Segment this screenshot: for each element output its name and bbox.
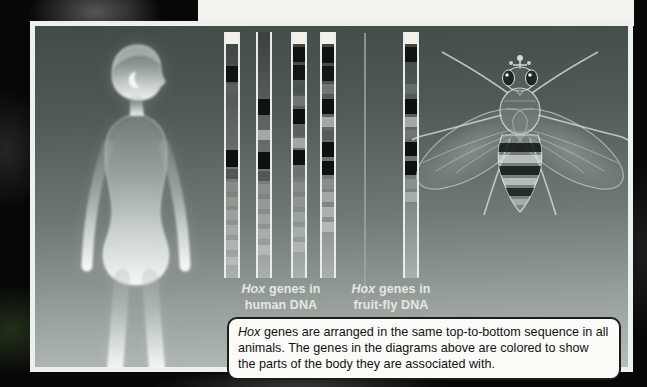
gene-segment — [293, 197, 305, 207]
gene-segment — [226, 210, 238, 220]
gene-segment — [293, 84, 305, 94]
gene-segment — [322, 192, 334, 202]
hox-italic: Hox — [241, 282, 265, 296]
fly-dna-label: Hox genes in fruit-fly DNA — [326, 282, 456, 313]
gene-segment — [258, 171, 270, 181]
gene-segment — [293, 182, 305, 192]
gene-segment — [322, 84, 334, 94]
gene-segment — [226, 240, 238, 250]
gene-segment — [258, 152, 270, 169]
gene-segment — [293, 150, 305, 165]
gene-segment — [258, 229, 270, 239]
gene-segment — [258, 214, 270, 224]
caption-text: genes are arranged in the same top-to-bo… — [238, 325, 608, 371]
gene-segment — [293, 167, 305, 177]
gene-segment — [293, 65, 305, 80]
gene-segment — [226, 169, 238, 179]
hox-italic: Hox — [351, 282, 375, 296]
gene-segment — [322, 32, 334, 44]
gene-segment — [226, 182, 238, 192]
gene-segment — [258, 99, 270, 115]
gene-segment — [322, 222, 334, 232]
gene-segment — [226, 66, 238, 82]
gene-segment — [322, 142, 334, 157]
gene-segment — [226, 150, 238, 167]
gene-segment — [226, 257, 238, 265]
gene-segment — [258, 199, 270, 209]
caption-box: Hox genes are arranged in the same top-t… — [227, 317, 621, 380]
gene-segment — [258, 184, 270, 194]
gene-segment — [322, 207, 334, 217]
gene-segment — [293, 109, 305, 124]
gene-segment — [293, 32, 305, 44]
caption-hox-italic: Hox — [238, 325, 260, 339]
gene-segment — [226, 84, 238, 95]
gene-segment — [226, 197, 238, 206]
gene-segment — [293, 138, 305, 148]
gene-segment — [322, 99, 334, 114]
figure-panel-content: Hox genes in human DNA Hox genes in frui… — [35, 26, 628, 367]
gene-segment — [258, 130, 270, 140]
gene-segment — [322, 117, 334, 127]
section-divider — [364, 33, 366, 300]
fly-abdomen — [492, 135, 548, 212]
gene-segment — [322, 66, 334, 81]
fly-dna-label-line2: fruit-fly DNA — [326, 298, 456, 314]
gene-segment — [293, 126, 305, 136]
gene-bar — [291, 32, 307, 278]
gene-segment — [405, 32, 417, 44]
fly-right-eye — [526, 70, 538, 86]
gene-segment — [293, 242, 305, 252]
gene-bar — [320, 32, 336, 278]
gene-segment — [293, 47, 305, 62]
gene-segment — [293, 227, 305, 237]
fly-dna-label-rest: genes in — [375, 282, 430, 296]
fly-left-eye — [503, 70, 515, 86]
gene-segment — [293, 212, 305, 222]
gene-segment — [258, 117, 270, 127]
gene-bar — [256, 32, 272, 278]
gene-segment — [226, 32, 238, 44]
gene-segment — [322, 179, 334, 189]
gene-segment — [226, 225, 238, 235]
human-dna-label-rest: genes in — [265, 282, 320, 296]
gene-segment — [293, 96, 305, 106]
fruit-fly-illustration — [412, 48, 628, 222]
gene-segment — [258, 245, 270, 255]
gene-segment — [322, 47, 334, 63]
figure-canvas: Hox genes in human DNA Hox genes in frui… — [0, 0, 647, 387]
fly-dna-label-line1: Hox genes in — [326, 282, 456, 298]
gene-segment — [322, 161, 334, 175]
gene-segment — [322, 130, 334, 140]
gene-bar — [224, 32, 240, 278]
